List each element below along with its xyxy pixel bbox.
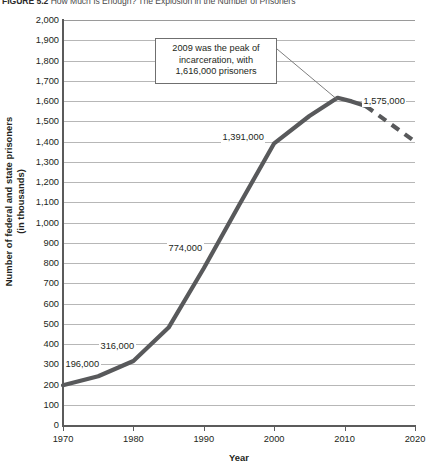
point-label-2000: 1,391,000: [221, 132, 265, 143]
x-tick-label: 1980: [109, 434, 157, 445]
x-axis-tick: [345, 425, 346, 431]
x-axis-tick: [204, 425, 205, 431]
x-axis-tick: [63, 425, 64, 431]
point-label-1990: 774,000: [167, 243, 204, 254]
y-axis-title: Number of federal and state prisoners (i…: [3, 102, 26, 302]
x-axis-tick: [133, 425, 134, 431]
gridline: [63, 20, 415, 21]
y-tick-label: 2,000: [3, 15, 59, 25]
y-tick-label: 400: [3, 339, 59, 349]
y-axis-title-line-1: Number of federal and state prisoners: [3, 102, 15, 302]
point-label-1980: 316,000: [99, 341, 136, 352]
annotation-line-2: incarceration, with: [160, 55, 272, 67]
y-tick-label: 1,900: [3, 35, 59, 45]
gridline: [63, 364, 415, 365]
x-axis-tick: [415, 425, 416, 431]
x-tick-label: 1970: [39, 434, 87, 445]
gridline: [63, 263, 415, 264]
x-tick-label: 2000: [250, 434, 298, 445]
gridline: [63, 121, 415, 122]
gridline: [63, 385, 415, 386]
y-tick-label: 100: [3, 400, 59, 410]
x-axis-title: Year: [63, 452, 415, 463]
x-tick-label: 2020: [391, 434, 430, 445]
y-axis-title-line-2: (in thousands): [14, 102, 26, 302]
x-tick-label: 1990: [180, 434, 228, 445]
x-axis-line: [62, 425, 416, 427]
gridline: [63, 223, 415, 224]
gridline: [63, 202, 415, 203]
gridline: [63, 324, 415, 325]
y-tick-label: 200: [3, 380, 59, 390]
x-tick-label: 2010: [321, 434, 369, 445]
annotation-line-3: 1,616,000 prisoners: [160, 66, 272, 78]
x-axis-tick: [274, 425, 275, 431]
annotation-line-1: 2009 was the peak of: [160, 43, 272, 55]
gridline: [63, 243, 415, 244]
gridline: [63, 283, 415, 284]
gridline: [63, 304, 415, 305]
point-label-1970: 196,000: [64, 359, 101, 370]
y-tick-label: 500: [3, 319, 59, 329]
gridline: [63, 405, 415, 406]
peak-annotation-callout: 2009 was the peak of incarceration, with…: [155, 38, 277, 84]
y-tick-label: 300: [3, 359, 59, 369]
gridline: [63, 182, 415, 183]
y-tick-label: 1,700: [3, 76, 59, 86]
y-tick-label: 1,800: [3, 56, 59, 66]
y-tick-label: 0: [3, 420, 59, 430]
gridline: [63, 162, 415, 163]
point-label-2013: 1,575,000: [362, 96, 406, 107]
